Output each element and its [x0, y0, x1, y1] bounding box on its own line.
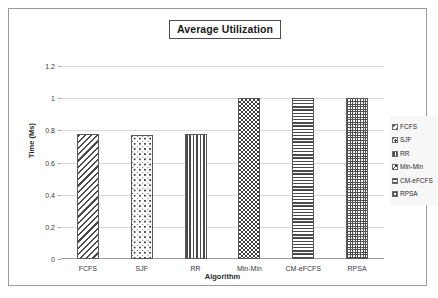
y-tick-label: 0.4 [45, 191, 55, 198]
legend-label: CM-eFCFS [400, 178, 433, 185]
x-tick-label: SJF [136, 265, 148, 272]
legend-label: Min-Min [400, 164, 423, 171]
x-tick-label: CM-eFCFS [286, 265, 321, 272]
legend-item-rpsa[interactable]: RPSA [392, 188, 436, 202]
legend-swatch-icon [392, 151, 398, 157]
y-tick-label: 0 [51, 256, 55, 263]
legend-item-fcfs[interactable]: FCFS [392, 120, 436, 134]
x-axis-title: Algorithm [61, 272, 384, 281]
legend-label: RR [400, 151, 409, 158]
x-tick-label: RPSA [348, 265, 367, 272]
legend-swatch-icon [392, 124, 398, 130]
y-tick-label: 1.2 [45, 63, 55, 70]
x-tick-label: Min-Min [237, 265, 262, 272]
chart-frame: Average Utilization Time (Ms) 00.20.40.6… [8, 8, 427, 286]
legend-item-cm-efcfs[interactable]: CM-eFCFS [392, 174, 436, 188]
bar-group: RPSA [330, 66, 384, 259]
x-tick-label: FCFS [79, 265, 97, 272]
bar-group: RR [169, 66, 223, 259]
plot-area: 00.20.40.60.811.2FCFSSJFRRMin-MinCM-eFCF… [61, 66, 384, 259]
legend-swatch-icon [392, 164, 398, 170]
bar-group: Min-Min [223, 66, 277, 259]
y-axis-title: Time (Ms) [27, 111, 36, 171]
legend-swatch-icon [392, 191, 398, 197]
legend-item-min-min[interactable]: Min-Min [392, 161, 436, 175]
legend-item-sjf[interactable]: SJF [392, 134, 436, 148]
legend-swatch-icon [392, 137, 398, 143]
bar-group: FCFS [61, 66, 115, 259]
legend-label: RPSA [400, 191, 418, 198]
y-tick-mark [58, 259, 61, 260]
y-tick-label: 0.8 [45, 127, 55, 134]
chart-legend: FCFSSJFRRMin-MinCM-eFCFSRPSA [390, 116, 438, 205]
bar-cm-efcfs[interactable] [292, 98, 314, 259]
bar-rpsa[interactable] [346, 98, 368, 259]
legend-swatch-icon [392, 178, 398, 184]
chart-title: Average Utilization [169, 20, 281, 39]
bar-min-min[interactable] [238, 98, 260, 259]
legend-label: SJF [400, 137, 412, 144]
bar-group: SJF [115, 66, 169, 259]
bar-sjf[interactable] [131, 135, 153, 259]
legend-item-rr[interactable]: RR [392, 147, 436, 161]
bar-rr[interactable] [185, 134, 207, 259]
legend-label: FCFS [400, 124, 417, 131]
x-tick-label: RR [191, 265, 201, 272]
y-tick-label: 1 [51, 95, 55, 102]
bar-group: CM-eFCFS [276, 66, 330, 259]
y-tick-label: 0.6 [45, 159, 55, 166]
bar-fcfs[interactable] [77, 134, 99, 259]
y-tick-label: 0.2 [45, 223, 55, 230]
